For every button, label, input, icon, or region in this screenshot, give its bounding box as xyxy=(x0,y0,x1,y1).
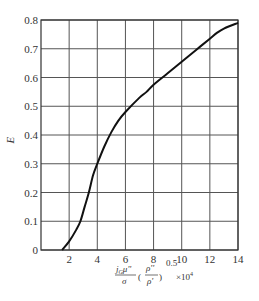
x-label-rho-num: ρ'' xyxy=(145,263,155,273)
y-tick-label: 0.1 xyxy=(24,215,38,227)
y-tick-label: 0.2 xyxy=(24,187,38,199)
x-label-rho-den: ρ' xyxy=(146,276,154,286)
x-tick-label: 14 xyxy=(233,253,245,265)
x-tick-label: 10 xyxy=(176,253,188,265)
x-tick-label: 4 xyxy=(95,253,101,265)
x-label-exponent: 0.5 xyxy=(166,258,178,268)
y-tick-label: 0 xyxy=(33,244,39,256)
y-tick-label: 0.6 xyxy=(24,72,38,84)
y-tick-label: 0.5 xyxy=(24,100,38,112)
x-label-lparen: ( xyxy=(138,272,141,282)
x-tick-label: 12 xyxy=(204,253,215,265)
y-tick-label: 0.3 xyxy=(24,158,38,170)
data-curve xyxy=(62,23,238,250)
y-axis-label: E xyxy=(4,136,16,144)
x-label-rparen: ) xyxy=(159,272,162,282)
y-tick-label: 0.4 xyxy=(24,129,38,141)
line-chart: 00.10.20.30.40.50.60.70.8 2468101214 E j… xyxy=(0,0,259,301)
x-tick-labels: 2468101214 xyxy=(66,253,244,265)
x-label-scale: ×104 xyxy=(176,271,193,282)
y-tick-label: 0.8 xyxy=(24,14,38,26)
y-tick-label: 0.7 xyxy=(24,43,38,55)
x-label-numerator: jGμ'' xyxy=(115,264,132,275)
y-tick-labels: 00.10.20.30.40.50.60.70.8 xyxy=(24,14,38,256)
x-label-denominator: σ xyxy=(122,276,127,286)
grid-lines xyxy=(41,20,238,250)
x-tick-label: 2 xyxy=(66,253,72,265)
